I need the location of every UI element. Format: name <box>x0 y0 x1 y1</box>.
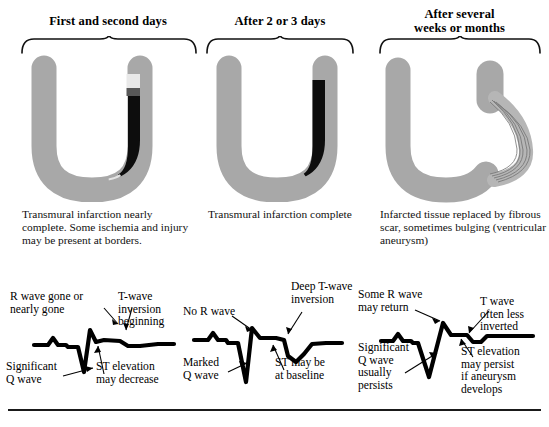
ventricle-cross-section-acute <box>20 54 180 202</box>
ecg-trace-acute <box>8 300 183 395</box>
description-1: Transmural infarction nearly complete. S… <box>22 208 194 247</box>
ecg-trace-subacute <box>180 300 355 395</box>
ventricle-cross-section-complete <box>205 54 365 202</box>
bottom-divider <box>8 409 541 411</box>
column-header-2: After 2 or 3 days <box>205 14 355 28</box>
figure-root: First and second days Transmural infarct… <box>0 0 549 427</box>
ventricle-cross-section-aneurysm <box>378 54 546 204</box>
ecg-trace-chronic <box>355 295 549 395</box>
brace-2 <box>205 36 355 54</box>
brace-3 <box>378 36 542 54</box>
brace-1 <box>20 36 198 54</box>
column-header-1: First and second days <box>18 14 198 28</box>
description-2: Transmural infarction complete <box>208 208 358 221</box>
description-3: Infarcted tissue replaced by fibrous sca… <box>380 208 548 247</box>
column-header-3: After several weeks or months <box>382 7 537 35</box>
